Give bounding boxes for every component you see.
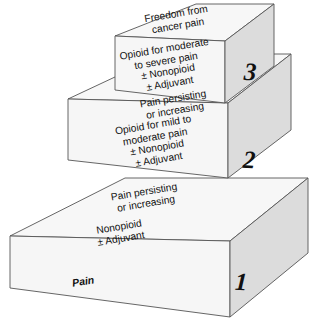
step-1-number: 1 — [234, 268, 248, 297]
step-3-number: 3 — [243, 58, 257, 87]
who-analgesic-ladder-figure: Freedom from cancer pain Opioid for mode… — [0, 0, 326, 327]
step-2-number: 2 — [242, 146, 256, 175]
step-1-front-face — [10, 236, 230, 317]
